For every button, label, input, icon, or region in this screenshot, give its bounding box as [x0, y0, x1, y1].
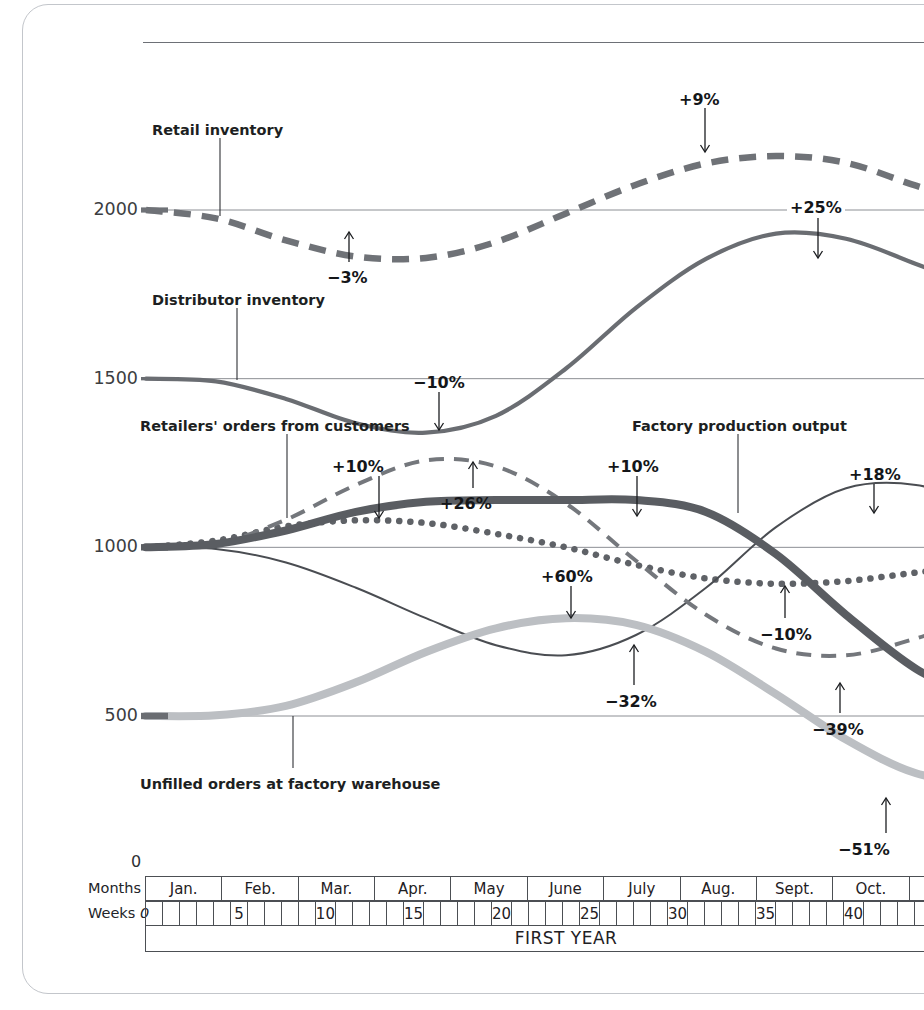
series-retailers-orders-from-customers: [146, 520, 924, 584]
month-cell: July: [604, 877, 680, 900]
week-cell: [651, 902, 668, 925]
week-cell: [688, 902, 705, 925]
first-year-label: FIRST YEAR: [146, 928, 924, 948]
week-cell: [146, 902, 163, 925]
month-cell: Mar.: [299, 877, 375, 900]
months-row-label: Months: [86, 876, 145, 901]
week-cell: [424, 902, 441, 925]
annotation-distributor-orders-peak: +26%: [440, 494, 492, 513]
annotation-distributor-inventory-peak: +25%: [787, 198, 845, 217]
series-label-retail-inventory: Retail inventory: [152, 122, 283, 138]
week-cell: [214, 902, 231, 925]
month-cell: Apr.: [375, 877, 451, 900]
week-cell: [881, 902, 898, 925]
week-cell: 10: [316, 902, 336, 925]
series-label-retailers-orders: Retailers' orders from customers: [140, 418, 410, 434]
week-cell: [600, 902, 617, 925]
week-tick-label: 25: [580, 905, 599, 923]
y-axis-zero-label: 0: [131, 852, 141, 871]
month-cell: Aug.: [681, 877, 757, 900]
week-cell: [370, 902, 387, 925]
week-tick-label: 35: [756, 905, 775, 923]
annotation-retail-inventory-trough: −3%: [327, 268, 368, 287]
annotation-distributor-inventory-trough: −10%: [413, 373, 465, 392]
week-cell: [634, 902, 651, 925]
week-cell: [163, 902, 180, 925]
annotation-retailers-orders-peak: +10%: [332, 457, 384, 476]
first-year-bracket: FIRST YEAR: [145, 926, 924, 952]
week-cell: [336, 902, 353, 925]
week-tick-label: 20: [492, 905, 511, 923]
week-cell: [441, 902, 458, 925]
week-cell: 35: [756, 902, 776, 925]
week-tick-label: 40: [844, 905, 863, 923]
week-cell: [739, 902, 756, 925]
week-tick-label: 10: [316, 905, 335, 923]
series-label-distributor-inventory: Distributor inventory: [152, 292, 325, 308]
weeks-cells: 51015202530354045: [145, 901, 924, 926]
week-cell: [529, 902, 546, 925]
label-leader-lines: [220, 138, 738, 768]
week-cell: [265, 902, 282, 925]
week-cell: [915, 902, 924, 925]
annotation-factory-orders-peak: +18%: [849, 465, 901, 484]
weeks-row-label: Weeks 0: [86, 901, 145, 926]
annotation-retailers-orders-trough: −10%: [760, 625, 812, 644]
week-cell: [563, 902, 580, 925]
month-cell: May: [451, 877, 527, 900]
week-cell: [512, 902, 529, 925]
week-cell: [180, 902, 197, 925]
week-cell: 25: [580, 902, 600, 925]
week-cell: [810, 902, 827, 925]
y-tick-2000: 2000: [78, 199, 138, 219]
annotation-factory-orders-trough: −32%: [605, 692, 657, 711]
week-cell: [864, 902, 881, 925]
week-cell: [898, 902, 915, 925]
series-distributor-inventory: [146, 232, 924, 433]
annotation-unfilled-orders-peak: +60%: [541, 567, 593, 586]
annotation-unfilled-orders-trough: −51%: [838, 840, 890, 859]
series-label-factory-production-output: Factory production output: [632, 418, 847, 434]
week-cell: [546, 902, 563, 925]
week-cell: [353, 902, 370, 925]
week-cell: 20: [492, 902, 512, 925]
annotation-distributor-orders-trough: −39%: [812, 720, 864, 739]
week-cell: [776, 902, 793, 925]
week-cell: 30: [668, 902, 688, 925]
week-cell: [475, 902, 492, 925]
y-tick-1500: 1500: [78, 368, 138, 388]
week-tick-label: 30: [668, 905, 687, 923]
series-factory-production-output: [146, 499, 924, 702]
month-cell: Nov.: [910, 877, 924, 900]
week-cell: [793, 902, 810, 925]
week-cell: [387, 902, 404, 925]
week-tick-label: 15: [404, 905, 423, 923]
annotation-factory-output-peak: +10%: [607, 457, 659, 476]
x-axis-month-week-table: Months Jan.Feb.Mar.Apr.MayJuneJulyAug.Se…: [86, 876, 924, 926]
series-curves: [141, 156, 924, 784]
week-cell: [248, 902, 265, 925]
month-cell: Jan.: [146, 877, 222, 900]
series-label-unfilled-orders: Unfilled orders at factory warehouse: [140, 776, 440, 792]
annotation-retail-inventory-peak: +9%: [679, 90, 720, 109]
week-cell: [827, 902, 844, 925]
months-row: Months Jan.Feb.Mar.Apr.MayJuneJulyAug.Se…: [86, 876, 924, 901]
month-cell: Oct.: [833, 877, 909, 900]
week-cell: [299, 902, 316, 925]
week-cell: [197, 902, 214, 925]
week-cell: [722, 902, 739, 925]
y-tick-1000: 1000: [78, 536, 138, 556]
week-tick-label: 5: [234, 905, 244, 923]
months-cells: Jan.Feb.Mar.Apr.MayJuneJulyAug.Sept.Oct.…: [145, 876, 924, 901]
month-cell: Feb.: [222, 877, 298, 900]
week-cell: [458, 902, 475, 925]
weeks-row: Weeks 0 51015202530354045: [86, 901, 924, 926]
month-cell: Sept.: [757, 877, 833, 900]
week-cell: [282, 902, 299, 925]
week-cell: [617, 902, 634, 925]
month-cell: June: [528, 877, 604, 900]
week-cell: 40: [844, 902, 864, 925]
y-tick-500: 500: [78, 705, 138, 725]
week-cell: [705, 902, 722, 925]
week-cell: 15: [404, 902, 424, 925]
